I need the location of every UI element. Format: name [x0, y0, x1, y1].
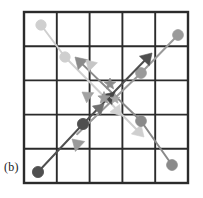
trajectory-segment — [141, 121, 172, 165]
waypoint-dot — [77, 118, 88, 129]
trajectory-segment — [141, 35, 178, 73]
waypoint-dot — [60, 52, 70, 62]
panel-caption-label: (b) — [4, 160, 19, 175]
trajectory-segment — [41, 25, 65, 57]
extra-arrow-markers — [82, 60, 121, 116]
trajectory-segment — [65, 57, 139, 132]
waypoint-dot — [32, 166, 43, 177]
trajectory-grid-plot — [0, 0, 203, 198]
figure-panel: (b) — [0, 0, 203, 198]
waypoint-dot — [167, 160, 178, 171]
waypoint-dot — [36, 20, 46, 30]
waypoint-dot — [136, 116, 147, 127]
arrow-down-left-mid — [82, 92, 94, 103]
waypoint-dot — [173, 30, 184, 41]
